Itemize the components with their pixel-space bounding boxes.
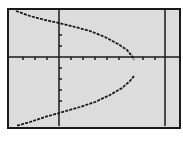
parabola-upper-branch	[16, 11, 134, 60]
graph-plot	[0, 0, 183, 143]
parabola-lower-branch	[16, 76, 134, 126]
